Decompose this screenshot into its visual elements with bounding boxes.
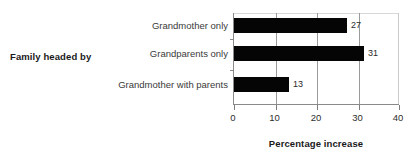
x-axis-tick [317,105,318,110]
x-axis-tick [276,105,277,110]
bar-value-label: 27 [347,18,361,33]
x-axis-tick [399,105,400,110]
x-axis-tick-label: 0 [230,112,235,123]
y-axis-category-label: Grandparents only [38,48,228,60]
x-axis-tick-label: 40 [393,112,404,123]
y-axis-category-label: Grandmother only [38,20,228,32]
x-axis-tick-label: 30 [352,112,363,123]
plot-frame-right [398,13,399,104]
x-axis-title: Percentage increase [233,138,399,149]
y-axis-tick [230,70,234,71]
bar-value-label: 13 [289,77,303,92]
bar [234,77,289,92]
x-axis-tick-label: 20 [311,112,322,123]
y-axis-tick [230,39,234,40]
x-axis-tick [359,105,360,110]
bar [234,46,364,61]
bar [234,18,347,33]
x-axis-tick-label: 10 [269,112,280,123]
chart-figure: Family headed by Grandmother only Grandp… [0,0,414,163]
bar-value-label: 31 [364,46,378,61]
plot-area: 27 31 13 [233,13,399,105]
x-axis-tick [234,105,235,110]
y-axis-category-label: Grandmother with parents [38,79,228,91]
